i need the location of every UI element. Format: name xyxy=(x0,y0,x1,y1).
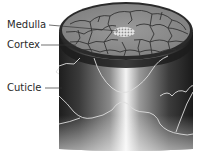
label-medulla: Medulla xyxy=(7,19,46,31)
label-cuticle: Cuticle xyxy=(7,82,41,94)
cross-section-top xyxy=(59,2,193,60)
medulla-core xyxy=(113,27,135,37)
label-cortex: Cortex xyxy=(7,39,40,51)
hair-structure-diagram: Medulla Cortex Cuticle xyxy=(0,0,199,156)
